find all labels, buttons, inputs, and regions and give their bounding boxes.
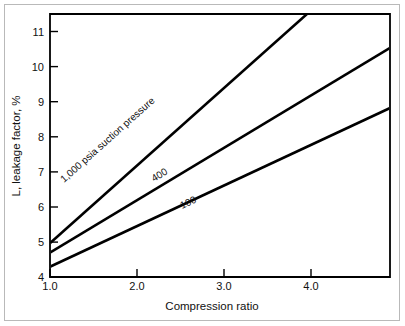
curve-100 — [50, 108, 390, 267]
leakage-factor-chart: 11 10 9 8 7 6 5 4 1.0 2.0 3.0 4.0 Compre… — [0, 0, 405, 326]
y-axis-title: L, leakage factor, % — [10, 95, 22, 196]
y-tick-label-10: 10 — [32, 61, 44, 73]
curve-labels: 1,000 psia suction pressure 400 100 — [58, 95, 198, 211]
figure-container: 11 10 9 8 7 6 5 4 1.0 2.0 3.0 4.0 Compre… — [0, 0, 405, 326]
x-tick-label-4: 4.0 — [303, 280, 318, 292]
curve-label-100: 100 — [178, 194, 198, 211]
x-axis-title: Compression ratio — [165, 300, 258, 312]
y-tick-label-5: 5 — [38, 236, 44, 248]
x-tick-label-1: 1.0 — [42, 280, 57, 292]
x-axis-ticks — [50, 269, 311, 277]
y-tick-label-7: 7 — [38, 166, 44, 178]
y-tick-label-9: 9 — [38, 96, 44, 108]
y-axis-ticks — [50, 32, 58, 243]
y-tick-label-11: 11 — [33, 26, 44, 38]
y-tick-label-8: 8 — [38, 131, 44, 143]
y-tick-label-6: 6 — [38, 201, 44, 213]
curve-label-1000-psia: 1,000 psia suction pressure — [58, 95, 157, 185]
x-tick-label-2: 2.0 — [129, 280, 144, 292]
curve-1000-psia — [50, 14, 307, 243]
x-tick-label-3: 3.0 — [216, 280, 231, 292]
x-axis-tick-labels: 1.0 2.0 3.0 4.0 — [42, 280, 318, 292]
y-axis-tick-labels: 11 10 9 8 7 6 5 4 — [32, 26, 44, 284]
